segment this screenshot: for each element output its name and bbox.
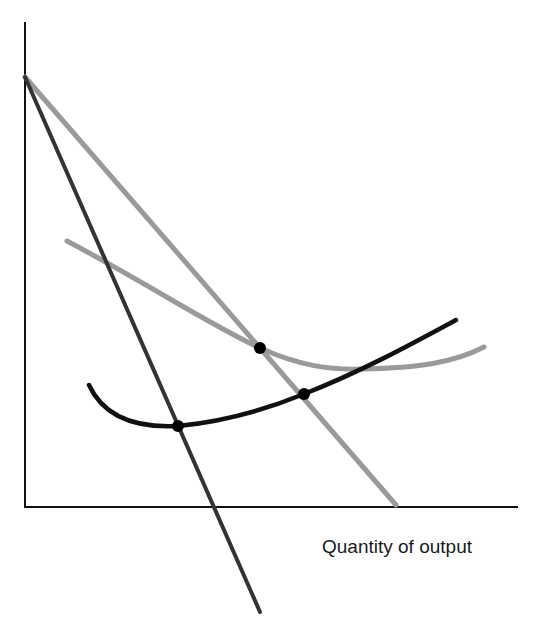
intersection-dot — [172, 420, 184, 432]
steep-dark-line — [25, 77, 260, 612]
intersection-dot — [254, 342, 266, 354]
gray-straight-line — [25, 77, 396, 505]
intersection-dot — [298, 388, 310, 400]
x-axis-label: Quantity of output — [322, 536, 472, 558]
black-curve — [89, 320, 456, 426]
gray-u-curve — [67, 241, 484, 369]
